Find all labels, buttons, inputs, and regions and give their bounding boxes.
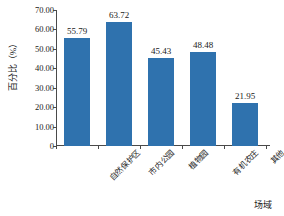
bar[interactable]: 21.95 — [232, 103, 258, 146]
x-tick-label: 市内公园 — [147, 148, 176, 177]
bar-value-label: 55.79 — [67, 26, 87, 36]
x-tick-label: 其他 — [269, 148, 284, 166]
x-axis-tick-labels: 自然保护区 市内公园 植物园 有机农庄 其他 — [56, 148, 270, 194]
x-axis-title: 场域 — [254, 200, 272, 210]
x-tick-label: 自然保护区 — [108, 148, 143, 183]
y-tick-label: 30.00 — [16, 83, 54, 92]
plot-area: 55.79 63.72 45.43 48.48 21.95 — [56, 10, 270, 146]
y-tick-label: 0 — [16, 142, 54, 151]
x-tick-label: 有机农庄 — [231, 148, 260, 177]
bar[interactable]: 63.72 — [106, 22, 132, 146]
x-tick-label: 植物园 — [187, 148, 210, 171]
bar-value-label: 48.48 — [193, 40, 213, 50]
bar-value-label: 63.72 — [109, 10, 129, 20]
bar[interactable]: 55.79 — [64, 38, 90, 146]
bar-chart: 百分比（%） 0 10.00 20.00 30.00 40.00 50.00 6… — [0, 0, 284, 216]
bars-layer: 55.79 63.72 45.43 48.48 21.95 — [56, 10, 270, 146]
bar-value-label: 45.43 — [151, 46, 171, 56]
y-tick-label: 10.00 — [16, 122, 54, 131]
y-tick-label: 60.00 — [16, 25, 54, 34]
y-tick-label: 40.00 — [16, 64, 54, 73]
y-tick-label: 50.00 — [16, 44, 54, 53]
y-tick-label: 70.00 — [16, 6, 54, 15]
y-tick-label: 20.00 — [16, 103, 54, 112]
bar[interactable]: 48.48 — [190, 52, 216, 146]
bar-value-label: 21.95 — [235, 91, 255, 101]
y-axis-tick-labels: 0 10.00 20.00 30.00 40.00 50.00 60.00 70… — [16, 10, 54, 146]
bar[interactable]: 45.43 — [148, 58, 174, 146]
